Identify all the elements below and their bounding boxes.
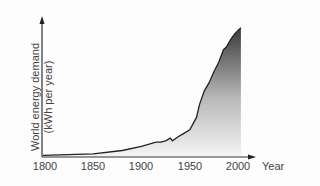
- x-tick-1800: 1800: [33, 160, 57, 172]
- x-tick-1900: 1900: [129, 160, 153, 172]
- x-tick-1850: 1850: [81, 160, 105, 172]
- area-series: [43, 28, 241, 157]
- y-axis-title-line2: (kWh per year): [42, 17, 55, 177]
- x-tick-1950: 1950: [178, 160, 202, 172]
- x-axis-arrow-icon: [248, 155, 256, 160]
- y-axis-title: World energy demand (kWh per year): [29, 17, 55, 177]
- x-tick-2000: 2000: [226, 160, 250, 172]
- x-axis-title: Year: [262, 160, 284, 172]
- y-axis-title-line1: World energy demand: [29, 17, 42, 177]
